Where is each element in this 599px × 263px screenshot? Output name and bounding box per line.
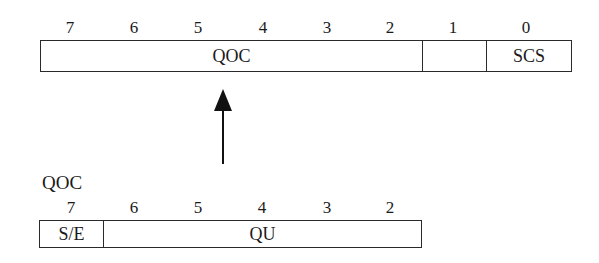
up-arrow-icon (210, 86, 238, 166)
field-qu: QU (103, 221, 421, 247)
bit-number: 2 (380, 19, 400, 36)
field-bit1 (422, 41, 486, 71)
bit-number: 6 (124, 199, 144, 216)
bit-number: 0 (516, 19, 536, 36)
field-scs: SCS (486, 41, 571, 71)
bit-number: 1 (443, 19, 463, 36)
bit-number: 2 (380, 199, 400, 216)
bit-number: 3 (317, 199, 337, 216)
top-register: QOC SCS (40, 40, 572, 72)
bit-number: 4 (252, 199, 272, 216)
bit-number: 7 (60, 19, 80, 36)
field-se: S/E (40, 221, 103, 247)
bit-number: 5 (188, 19, 208, 36)
bit-number: 3 (317, 19, 337, 36)
bit-number: 4 (253, 19, 273, 36)
bit-number: 7 (61, 199, 81, 216)
bottom-register: S/E QU (39, 220, 422, 248)
field-qoc: QOC (41, 41, 422, 71)
bit-number: 6 (124, 19, 144, 36)
bit-number: 5 (188, 199, 208, 216)
bottom-register-title: QOC (42, 172, 82, 194)
